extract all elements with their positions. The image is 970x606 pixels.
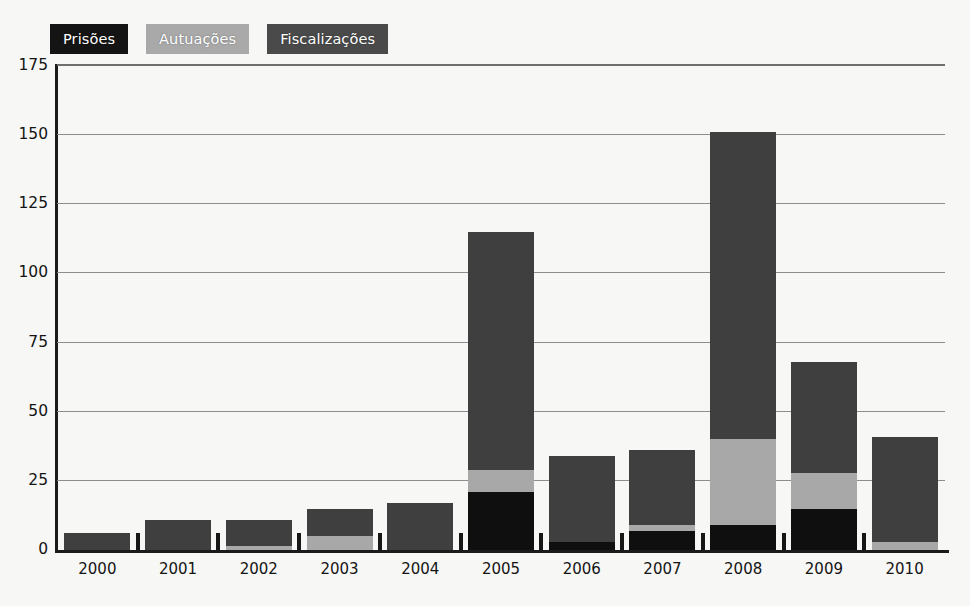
x-tick-2004 xyxy=(378,533,382,550)
stacked-bar-chart: Prisões Autuações Fiscalizações 02550751… xyxy=(0,0,970,606)
x-tick-2005 xyxy=(459,533,463,550)
bar-segment-2010-fiscalizaes[interactable] xyxy=(872,437,938,542)
bar-segment-2009-autuaes[interactable] xyxy=(791,473,857,509)
chart-legend: Prisões Autuações Fiscalizações xyxy=(50,24,388,54)
x-tick-2006 xyxy=(539,533,543,550)
bar-group-2007[interactable] xyxy=(629,66,695,550)
x-tick-2007 xyxy=(620,533,624,550)
legend-item-fiscalizacoes[interactable]: Fiscalizações xyxy=(267,24,388,54)
bar-segment-2009-fiscalizaes[interactable] xyxy=(791,362,857,473)
bar-stack-2003[interactable] xyxy=(307,509,373,550)
bar-group-2002[interactable] xyxy=(226,66,292,550)
bar-group-2001[interactable] xyxy=(145,66,211,550)
y-tick-label-150: 150 xyxy=(18,127,48,143)
legend-item-prisoes[interactable]: Prisões xyxy=(50,24,128,54)
legend-item-autuacoes[interactable]: Autuações xyxy=(146,24,249,54)
bar-stack-2008[interactable] xyxy=(710,132,776,550)
x-tick-label-2010: 2010 xyxy=(886,560,924,578)
bar-group-2008[interactable] xyxy=(710,66,776,550)
x-tick-label-2008: 2008 xyxy=(724,560,762,578)
bar-stack-2001[interactable] xyxy=(145,520,211,550)
y-tick-label-25: 25 xyxy=(28,473,48,489)
bar-segment-2005-fiscalizaes[interactable] xyxy=(468,232,534,470)
bar-group-2006[interactable] xyxy=(549,66,615,550)
bar-stack-2007[interactable] xyxy=(629,450,695,550)
bar-stack-2006[interactable] xyxy=(549,456,615,550)
x-tick-2003 xyxy=(297,533,301,550)
x-tick-label-2005: 2005 xyxy=(482,560,520,578)
bar-stack-2002[interactable] xyxy=(226,520,292,550)
x-tick-label-2000: 2000 xyxy=(78,560,116,578)
x-tick-2002 xyxy=(216,533,220,550)
bar-group-2009[interactable] xyxy=(791,66,857,550)
bar-segment-2004-fiscalizaes[interactable] xyxy=(387,503,453,550)
bar-segment-2000-fiscalizaes[interactable] xyxy=(64,533,130,550)
x-tick-2009 xyxy=(782,533,786,550)
x-tick-label-2006: 2006 xyxy=(563,560,601,578)
bar-segment-2005-prises[interactable] xyxy=(468,492,534,550)
x-tick-2010 xyxy=(862,533,866,550)
bar-segment-2005-autuaes[interactable] xyxy=(468,470,534,492)
x-tick-2008 xyxy=(701,533,705,550)
y-tick-label-100: 100 xyxy=(18,266,48,282)
plot-area: 0255075100125150175 20002001200220032004… xyxy=(57,66,945,550)
bar-group-2005[interactable] xyxy=(468,66,534,550)
y-tick-label-75: 75 xyxy=(28,335,48,351)
x-tick-2001 xyxy=(136,533,140,550)
bar-series-container xyxy=(57,66,945,550)
bar-segment-2010-autuaes[interactable] xyxy=(872,542,938,550)
bar-segment-2008-prises[interactable] xyxy=(710,525,776,550)
bar-segment-2001-fiscalizaes[interactable] xyxy=(145,520,211,550)
bar-segment-2007-prises[interactable] xyxy=(629,531,695,550)
legend-label-prisoes: Prisões xyxy=(63,31,115,47)
bar-group-2010[interactable] xyxy=(872,66,938,550)
bar-segment-2009-prises[interactable] xyxy=(791,509,857,550)
x-tick-label-2009: 2009 xyxy=(805,560,843,578)
legend-label-fiscalizacoes: Fiscalizações xyxy=(280,31,375,47)
legend-label-autuacoes: Autuações xyxy=(159,31,236,47)
x-tick-label-2001: 2001 xyxy=(159,560,197,578)
y-tick-label-50: 50 xyxy=(28,404,48,420)
x-tick-label-2002: 2002 xyxy=(240,560,278,578)
bar-segment-2003-fiscalizaes[interactable] xyxy=(307,509,373,537)
bar-segment-2003-autuaes[interactable] xyxy=(307,536,373,550)
bar-stack-2000[interactable] xyxy=(64,533,130,550)
x-axis-line xyxy=(55,550,949,553)
bar-stack-2009[interactable] xyxy=(791,362,857,550)
bar-stack-2004[interactable] xyxy=(387,503,453,550)
y-tick-label-175: 175 xyxy=(18,58,48,74)
bar-segment-2007-fiscalizaes[interactable] xyxy=(629,450,695,525)
bar-group-2003[interactable] xyxy=(307,66,373,550)
bar-group-2000[interactable] xyxy=(64,66,130,550)
bar-segment-2006-fiscalizaes[interactable] xyxy=(549,456,615,542)
bar-group-2004[interactable] xyxy=(387,66,453,550)
y-tick-label-0: 0 xyxy=(38,542,48,558)
bar-segment-2002-autuaes[interactable] xyxy=(226,546,292,550)
x-tick-label-2004: 2004 xyxy=(401,560,439,578)
bar-segment-2002-fiscalizaes[interactable] xyxy=(226,520,292,546)
bar-stack-2005[interactable] xyxy=(468,232,534,550)
x-tick-label-2007: 2007 xyxy=(643,560,681,578)
bar-segment-2008-fiscalizaes[interactable] xyxy=(710,132,776,439)
x-tick-label-2003: 2003 xyxy=(320,560,358,578)
bar-segment-2008-autuaes[interactable] xyxy=(710,439,776,525)
bar-stack-2010[interactable] xyxy=(872,437,938,550)
y-tick-label-125: 125 xyxy=(18,197,48,213)
bar-segment-2006-prises[interactable] xyxy=(549,542,615,550)
